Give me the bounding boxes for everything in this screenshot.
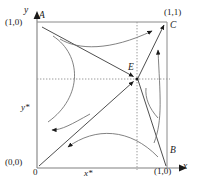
- y-star-label: y*: [21, 103, 30, 112]
- unit-square-border: [37, 22, 167, 168]
- separatrix-origin-to-E: [39, 82, 134, 167]
- corner-coord-B: (1,0): [154, 167, 171, 176]
- separatrix-E-to-C: [138, 25, 164, 78]
- corner-label-B: B: [170, 146, 176, 156]
- y-axis-label: y: [24, 6, 28, 16]
- corner-coord-C: (1,1): [164, 8, 181, 17]
- x-axis-label: x: [183, 162, 187, 172]
- trajectory-right-to-C: [154, 50, 160, 143]
- corner-label-A: A: [39, 11, 45, 21]
- x-star-label: x*: [84, 169, 93, 178]
- phase-portrait-canvas: [0, 0, 198, 182]
- origin-tick-label: 0: [33, 168, 38, 177]
- equilibrium-point-E-marker: [135, 77, 138, 80]
- trajectory-upper-to-C: [60, 31, 152, 47]
- star-dotted-lines: [37, 22, 170, 170]
- phase-portrait-figure: y A (1,0) (1,1) C B (1,0) x (0,0) 0 y* x…: [0, 0, 198, 182]
- separatrix-A-to-E: [42, 27, 134, 77]
- corner-label-C: C: [170, 21, 176, 31]
- trajectory-curves: [48, 31, 160, 157]
- corner-coord-A: (1,0): [5, 18, 22, 27]
- trajectory-right-lower-branch: [146, 88, 158, 118]
- corner-coord-origin: (0,0): [5, 158, 22, 167]
- trajectory-lower-to-origin: [68, 133, 158, 157]
- separatrix-E-to-B: [138, 80, 166, 166]
- equilibrium-label-E: E: [128, 63, 134, 73]
- trajectory-left-to-origin: [52, 114, 90, 130]
